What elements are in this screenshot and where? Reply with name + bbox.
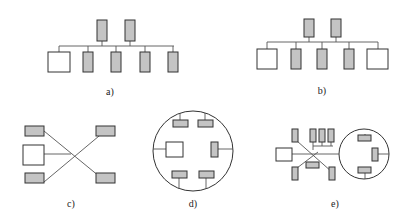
- device-node: [292, 129, 298, 142]
- panel-label-a: a): [106, 86, 114, 98]
- host-node: [23, 145, 44, 165]
- host-node: [276, 148, 292, 161]
- panel-label-b: b): [318, 85, 326, 97]
- device-node: [310, 129, 316, 142]
- device-node: [292, 167, 298, 180]
- device-node: [317, 49, 327, 69]
- host-node: [48, 52, 70, 72]
- host-node: [367, 49, 388, 69]
- device-node: [199, 171, 214, 178]
- device-node: [319, 129, 325, 142]
- device-node: [306, 162, 319, 168]
- device-node: [172, 171, 187, 178]
- ring-network: [153, 111, 233, 191]
- device-node: [358, 167, 371, 173]
- panel-d: d): [153, 111, 233, 210]
- device-node: [125, 20, 135, 41]
- device-node: [168, 52, 178, 72]
- device-node: [140, 52, 150, 72]
- panel-a: a): [48, 20, 178, 98]
- host-node: [257, 49, 277, 69]
- device-node: [97, 20, 107, 41]
- device-node: [344, 49, 354, 69]
- device-node: [198, 120, 213, 127]
- device-node: [331, 19, 341, 37]
- device-node: [96, 173, 115, 183]
- device-node: [372, 148, 378, 161]
- device-node: [25, 126, 44, 136]
- panel-label-e: e): [331, 198, 339, 210]
- panel-b: b): [257, 19, 388, 97]
- device-node: [291, 49, 301, 69]
- device-node: [96, 126, 115, 136]
- device-node: [211, 142, 218, 157]
- device-node: [304, 19, 314, 37]
- device-node: [173, 120, 188, 127]
- panel-label-d: d): [189, 198, 197, 210]
- device-node: [358, 135, 371, 141]
- device-node: [329, 167, 335, 180]
- panel-label-c: c): [67, 198, 75, 210]
- panel-c: c): [23, 126, 115, 210]
- device-node: [111, 52, 121, 72]
- device-node: [83, 52, 93, 72]
- device-node: [25, 173, 44, 183]
- host-node: [166, 142, 183, 157]
- panel-e: e): [276, 129, 389, 210]
- network-topology-figure: a) b) c): [0, 0, 408, 223]
- device-node: [328, 129, 334, 142]
